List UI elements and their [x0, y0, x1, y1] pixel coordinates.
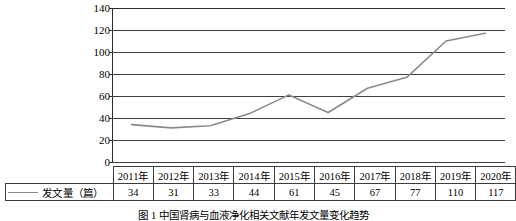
table-header-year: 2014年 [234, 167, 274, 184]
legend-line-icon [8, 192, 38, 193]
data-table-wrapper: 2011年 2012年 2013年 2014年 2015年 2016年 2017… [5, 166, 505, 201]
legend-spacer-cell [6, 167, 114, 184]
table-cell-value: 77 [395, 184, 435, 201]
table-header-year: 2016年 [314, 167, 354, 184]
table-cell-value: 117 [476, 184, 516, 201]
table-cell-value: 33 [194, 184, 234, 201]
table-header-year: 2020年 [476, 167, 516, 184]
table-header-year: 2017年 [355, 167, 395, 184]
table-header-year: 2015年 [274, 167, 314, 184]
table-header-year: 2019年 [435, 167, 475, 184]
y-tick-label: 120 [94, 25, 111, 36]
plot-area [112, 8, 505, 162]
chart-area: 140 120 100 80 60 40 20 0 [0, 0, 507, 168]
table-header-year: 2013年 [194, 167, 234, 184]
table-cell-value: 31 [153, 184, 193, 201]
table-row: 发文量（篇） 34 31 33 44 61 45 67 77 110 117 [6, 184, 516, 201]
table-cell-value: 44 [234, 184, 274, 201]
y-tick-label: 140 [94, 3, 111, 14]
table-header-year: 2012年 [153, 167, 193, 184]
gridline [112, 162, 505, 163]
table-cell-value: 45 [314, 184, 354, 201]
table-cell-value: 110 [435, 184, 475, 201]
table-cell-value: 61 [274, 184, 314, 201]
table-row-header: 2011年 2012年 2013年 2014年 2015年 2016年 2017… [6, 167, 516, 184]
data-table: 2011年 2012年 2013年 2014年 2015年 2016年 2017… [5, 166, 516, 201]
y-axis-labels: 140 120 100 80 60 40 20 0 [72, 0, 110, 168]
y-tick-label: 100 [94, 47, 111, 58]
table-cell-value: 67 [355, 184, 395, 201]
series-line-fa-wen-liang [112, 8, 505, 162]
figure-caption: 图 1 中国肾病与血液净化相关文献年发文量变化趋势 [0, 209, 507, 221]
legend-entry: 发文量（篇） [6, 184, 114, 201]
table-header-year: 2011年 [113, 167, 153, 184]
table-cell-value: 34 [113, 184, 153, 201]
table-header-year: 2018年 [395, 167, 435, 184]
legend-label: 发文量（篇） [42, 185, 104, 200]
